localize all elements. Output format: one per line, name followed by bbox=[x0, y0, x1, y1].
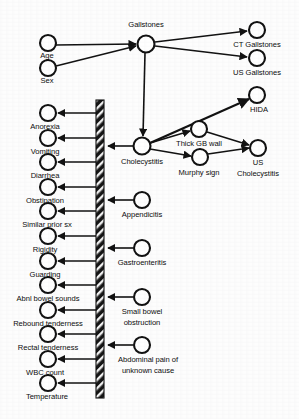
edge-age-to-gallstones bbox=[56, 44, 136, 45]
label-us-cholecystitis-line1: US bbox=[253, 158, 263, 167]
node-rigidity[interactable] bbox=[40, 228, 56, 244]
label-similar-prior-sx: Similar prior sx bbox=[22, 220, 72, 229]
label-hida: HIDA bbox=[250, 105, 269, 114]
node-thick-gb-wall[interactable] bbox=[191, 121, 207, 137]
label-us-gallstones: US Gallstones bbox=[233, 68, 281, 77]
node-murphy-sign[interactable] bbox=[192, 149, 208, 165]
node-small-bowel-obstruction[interactable] bbox=[134, 289, 150, 305]
label-small-bowel-obstruction-line1: Small bowel bbox=[122, 307, 163, 316]
label-obstipation: Obstipation bbox=[26, 196, 64, 205]
label-diarrhea: Diarrhea bbox=[31, 171, 61, 180]
node-us-gallstones[interactable] bbox=[249, 50, 265, 66]
label-rectal-tenderness: Rectal tenderness bbox=[18, 343, 79, 352]
node-guarding[interactable] bbox=[40, 253, 56, 269]
node-anorexia[interactable] bbox=[40, 105, 56, 121]
label-appendicitis: Appendicitis bbox=[122, 210, 163, 219]
label-sex: Sex bbox=[41, 76, 54, 85]
node-wbc-count[interactable] bbox=[40, 351, 56, 367]
node-diarrhea[interactable] bbox=[40, 154, 56, 170]
node-appendicitis[interactable] bbox=[134, 192, 150, 208]
label-wbc-count: WBC count bbox=[26, 368, 65, 377]
diagram-canvas: Age Sex Gallstones CT Gallstones US Gall… bbox=[0, 0, 299, 419]
node-us-cholecystitis[interactable] bbox=[250, 140, 266, 156]
label-murphy-sign: Murphy sign bbox=[179, 168, 220, 177]
node-ct-gallstones[interactable] bbox=[249, 22, 265, 38]
edge-cholecystitis-to-murphy-sign bbox=[150, 149, 191, 156]
edge-gallstones-to-cholecystitis bbox=[143, 53, 145, 136]
label-gallstones: Gallstones bbox=[128, 20, 164, 29]
label-small-bowel-obstruction-line2: obstruction bbox=[124, 318, 161, 327]
label-abdominal-pain-line1: Abdominal pain of bbox=[118, 355, 179, 364]
label-cholecystitis: Cholecystitis bbox=[121, 157, 163, 166]
hatched-separator-bar bbox=[96, 100, 104, 398]
node-rebound-tenderness[interactable] bbox=[40, 302, 56, 318]
label-abnl-bowel-sounds: Abnl bowel sounds bbox=[17, 294, 80, 303]
label-age: Age bbox=[40, 51, 53, 60]
node-gallstones[interactable] bbox=[138, 36, 155, 53]
label-anorexia: Anorexia bbox=[30, 122, 60, 131]
node-abdominal-pain-unknown-cause[interactable] bbox=[134, 337, 150, 353]
node-cholecystitis[interactable] bbox=[134, 138, 151, 155]
network-diagram: Age Sex Gallstones CT Gallstones US Gall… bbox=[0, 0, 299, 419]
node-age[interactable] bbox=[40, 35, 56, 51]
label-temperature: Temperature bbox=[26, 392, 68, 401]
label-thick-gb-wall: Thick GB wall bbox=[176, 139, 222, 148]
node-vomiting[interactable] bbox=[40, 130, 56, 146]
label-ct-gallstones: CT Gallstones bbox=[233, 40, 281, 49]
edge-sex-to-gallstones bbox=[56, 46, 136, 66]
node-abnl-bowel-sounds[interactable] bbox=[40, 277, 56, 293]
node-sex[interactable] bbox=[40, 60, 56, 76]
edge-murphy-sign-to-us-cholecystitis bbox=[208, 148, 249, 154]
label-guarding: Guarding bbox=[30, 270, 61, 279]
barrier-rect bbox=[96, 100, 104, 398]
node-obstipation[interactable] bbox=[40, 179, 56, 195]
label-us-cholecystitis-line2: Cholecystitis bbox=[237, 169, 279, 178]
node-temperature[interactable] bbox=[40, 375, 56, 391]
node-group bbox=[40, 22, 266, 391]
label-rebound-tenderness: Rebound tenderness bbox=[13, 319, 83, 328]
label-vomiting: Vomiting bbox=[31, 147, 60, 156]
node-rectal-tenderness[interactable] bbox=[40, 326, 56, 342]
label-rigidity: Rigidity bbox=[33, 245, 58, 254]
node-hida[interactable] bbox=[249, 87, 265, 103]
label-abdominal-pain-line2: unknown cause bbox=[122, 366, 174, 375]
node-similar-prior-sx[interactable] bbox=[40, 203, 56, 219]
label-gastroenteritis: Gastroenteritis bbox=[118, 258, 167, 267]
node-gastroenteritis[interactable] bbox=[134, 240, 150, 256]
